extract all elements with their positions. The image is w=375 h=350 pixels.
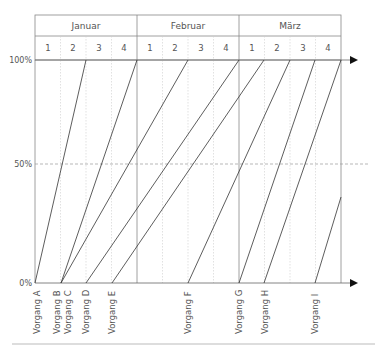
arrow-right-icon [350,56,358,64]
label-vorgang-a: Vorgang A [32,290,42,334]
y-label-0: 0% [19,279,32,288]
line-vorgang-h [264,60,341,283]
month-label-maerz: März [279,21,301,31]
y-label-50: 50% [14,160,32,169]
week-label: 1 [45,43,50,53]
line-vorgang-c [61,60,188,283]
label-vorgang-i: Vorgang I [310,294,320,334]
week-label: 4 [121,43,126,53]
label-vorgang-h: Vorgang H [260,290,270,334]
chart-svg: Januar Februar März 1 2 3 4 1 2 3 4 1 2 … [0,0,375,350]
week-label: 4 [325,43,330,53]
label-vorgang-e: Vorgang E [107,291,117,334]
week-label: 2 [172,43,177,53]
axis-0 [35,279,358,287]
arrow-right-icon [350,279,358,287]
line-vorgang-i [315,197,341,283]
line-vorgang-g [239,60,315,283]
week-label: 3 [198,43,203,53]
label-vorgang-b: Vorgang B [52,290,62,334]
week-label: 3 [96,43,101,53]
label-vorgang-f: Vorgang F [183,291,193,334]
week-label: 2 [274,43,279,53]
month-label-februar: Februar [171,21,206,31]
line-vorgang-b [61,60,137,283]
y-label-100: 100% [9,56,32,65]
week-label: 2 [70,43,75,53]
label-vorgang-d: Vorgang D [81,289,91,334]
label-vorgang-g: Vorgang G [234,290,244,334]
label-vorgang-c: Vorgang C [63,290,73,334]
week-label: 4 [223,43,228,53]
month-label-januar: Januar [71,21,101,31]
week-label: 1 [147,43,152,53]
axis-100 [35,56,358,64]
week-label: 1 [249,43,254,53]
week-dividers [61,36,316,283]
week-label: 3 [300,43,305,53]
